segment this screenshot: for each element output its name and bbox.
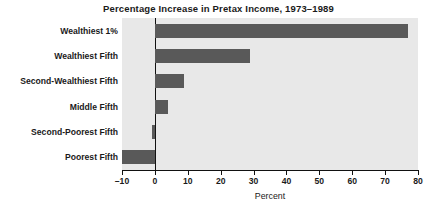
bar: [122, 150, 155, 164]
y-axis-category-labels: Wealthiest 1%Wealthiest FifthSecond-Weal…: [0, 18, 118, 170]
x-tick-mark: [385, 170, 386, 175]
x-tick-label: –10: [115, 176, 129, 186]
x-tick-mark: [221, 170, 222, 175]
zero-baseline: [155, 18, 156, 170]
x-tick-mark: [319, 170, 320, 175]
x-tick-label: 80: [413, 176, 423, 186]
bar-row: [122, 150, 418, 164]
bar: [155, 74, 185, 88]
x-tick-mark: [352, 170, 353, 175]
x-tick-label: 30: [249, 176, 259, 186]
chart-title: Percentage Increase in Pretax Income, 19…: [0, 3, 437, 14]
x-tick-label: 40: [282, 176, 292, 186]
chart-container: Percentage Increase in Pretax Income, 19…: [0, 0, 437, 212]
x-tick-mark: [155, 170, 156, 175]
bar-row: [122, 125, 418, 139]
x-tick-label: 50: [315, 176, 325, 186]
y-axis-label: Second-Poorest Fifth: [0, 125, 118, 139]
x-tick-label: 70: [380, 176, 390, 186]
x-axis-title: Percent: [122, 191, 418, 201]
x-tick-mark: [286, 170, 287, 175]
bar: [155, 24, 408, 38]
x-tick-mark: [188, 170, 189, 175]
y-axis-label: Poorest Fifth: [0, 150, 118, 164]
bar: [155, 100, 168, 114]
bar-row: [122, 100, 418, 114]
x-tick-mark: [418, 170, 419, 175]
x-tick-mark: [122, 170, 123, 175]
bar: [155, 49, 250, 63]
x-tick-label: 10: [183, 176, 193, 186]
x-tick-mark: [254, 170, 255, 175]
plot-area: [122, 18, 418, 170]
x-tick-label: 20: [216, 176, 226, 186]
bar-row: [122, 49, 418, 63]
x-tick-label: 0: [152, 176, 157, 186]
y-axis-label: Wealthiest Fifth: [0, 49, 118, 63]
bar-row: [122, 74, 418, 88]
x-axis-line: [122, 170, 418, 171]
bar: [152, 125, 155, 139]
y-axis-label: Middle Fifth: [0, 100, 118, 114]
x-tick-label: 60: [347, 176, 357, 186]
y-axis-label: Wealthiest 1%: [0, 24, 118, 38]
bar-row: [122, 24, 418, 38]
y-axis-label: Second-Wealthiest Fifth: [0, 74, 118, 88]
